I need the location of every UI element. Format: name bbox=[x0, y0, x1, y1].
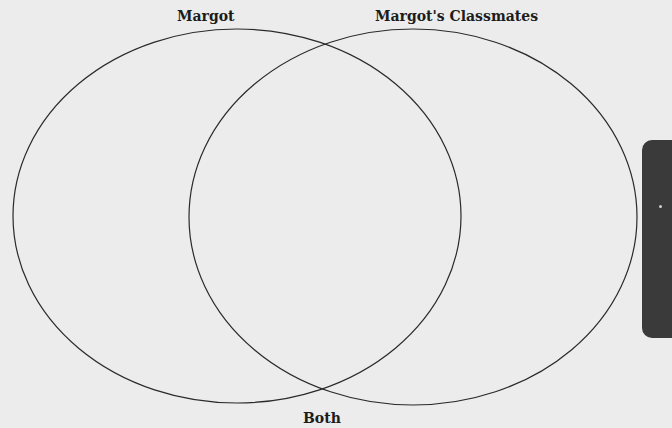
circle-margot bbox=[13, 29, 461, 403]
label-both: Both bbox=[303, 410, 341, 426]
side-tab bbox=[642, 140, 672, 338]
label-classmates: Margot's Classmates bbox=[375, 8, 538, 24]
label-margot: Margot bbox=[177, 8, 235, 24]
tab-marker-icon bbox=[659, 205, 662, 208]
circle-classmates bbox=[189, 29, 637, 405]
